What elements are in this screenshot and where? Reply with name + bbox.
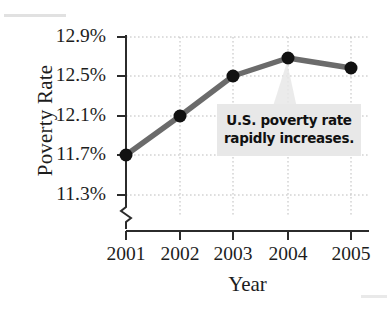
x-tick-label-2002: 2002 <box>152 243 208 265</box>
y-axis-break-icon <box>121 202 131 229</box>
data-point-2004 <box>282 52 295 65</box>
x-tick-label-2003: 2003 <box>205 243 261 265</box>
chart-figure: Poverty Rate 12.9% 12.5% 12.1% 11.7% 11.… <box>0 0 389 316</box>
x-axis-title: Year <box>120 272 375 297</box>
x-axis-ticks <box>126 231 351 240</box>
data-point-2002 <box>174 110 187 123</box>
annotation-line-2: rapidly increases. <box>224 130 354 148</box>
annotation-line-1: U.S. poverty rate <box>226 112 351 130</box>
data-point-2005 <box>345 62 358 75</box>
x-tick-label-2005: 2005 <box>323 243 379 265</box>
y-axis-ticks <box>117 37 126 195</box>
x-tick-label-2004: 2004 <box>260 243 316 265</box>
data-point-2001 <box>120 149 133 162</box>
annotation-callout: U.S. poverty rate rapidly increases. <box>217 104 361 156</box>
data-point-2003 <box>227 70 240 83</box>
plot-area <box>0 0 389 316</box>
x-tick-label-2001: 2001 <box>98 243 154 265</box>
